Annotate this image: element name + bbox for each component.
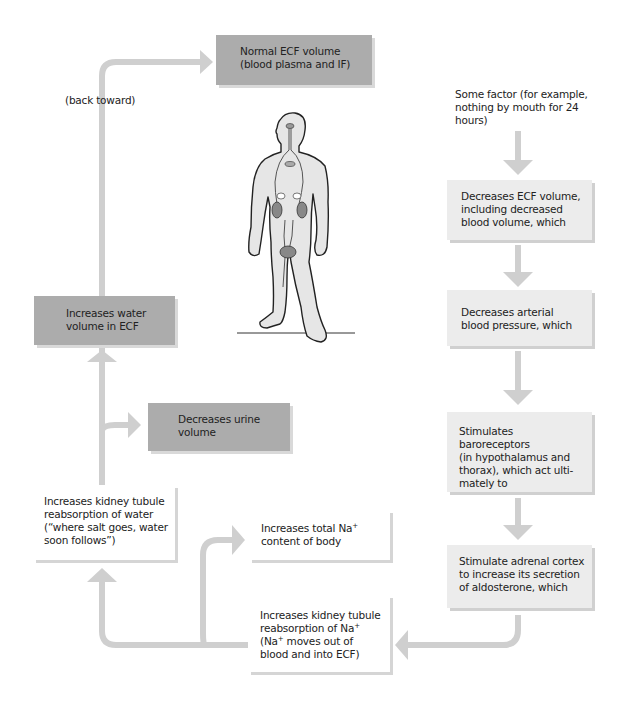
box-text: Decreases arterial: [461, 306, 584, 319]
box-text: blood volume, which: [461, 216, 584, 229]
box-text: (blood plasma and IF): [240, 58, 360, 71]
box-text: soon follows”): [44, 534, 171, 547]
decreases-ecf-volume-box: Decreases ECF volume, including decrease…: [447, 180, 592, 240]
box-text: blood pressure, which: [461, 319, 584, 332]
stimulates-baroreceptors-box: Stimulates baroreceptors (in hypothalamu…: [447, 412, 592, 492]
body-silhouette: [249, 113, 329, 342]
text-fragment: reabsorption of Na: [260, 622, 354, 634]
box-text: Normal ECF volume: [240, 45, 360, 58]
box-text: volume: [178, 426, 284, 439]
box-text: Stimulates baroreceptors: [459, 425, 586, 451]
box-text: content of body: [261, 535, 384, 548]
increases-water-volume-box: Increases water volume in ECF: [34, 296, 175, 345]
superscript: +: [352, 522, 358, 530]
box-text: Decreases urine: [178, 413, 284, 426]
box-text: Increases kidney tubule: [44, 495, 171, 508]
superscript: +: [354, 622, 360, 630]
box-text: reabsorption of water: [44, 508, 171, 521]
box-text: thorax), which act ulti-: [459, 464, 586, 477]
box-text: to increase its secretion: [459, 568, 586, 581]
box-text: including decreased: [461, 203, 584, 216]
box-text: Increases total Na+: [261, 522, 384, 535]
text-fragment: Increases total Na: [261, 522, 352, 534]
bladder-icon: [280, 246, 296, 258]
box-text: Decreases ECF volume,: [461, 190, 584, 203]
kidney-icon: [272, 202, 282, 218]
box-text: volume in ECF: [66, 320, 169, 333]
box-text: (“where salt goes, water: [44, 521, 171, 534]
trigger-line: Some factor (for example,: [455, 88, 588, 101]
decreases-urine-volume-box: Decreases urine volume: [148, 403, 290, 451]
increases-na-reabsorption-box: Increases kidney tubule reabsorption of …: [248, 595, 390, 672]
box-text: of aldosterone, which: [459, 581, 586, 594]
trigger-line: nothing by mouth for 24: [455, 101, 588, 114]
box-text: Increases kidney tubule: [260, 609, 384, 622]
trigger-line: hours): [455, 114, 588, 127]
hypothalamus-icon: [286, 124, 294, 129]
arrow-head: [200, 50, 213, 74]
human-body-figure: [225, 112, 375, 352]
decreases-arterial-pressure-box: Decreases arterial blood pressure, which: [447, 290, 592, 346]
stimulate-adrenal-cortex-box: Stimulate adrenal cortex to increase its…: [447, 545, 592, 608]
box-text: mately to: [459, 477, 586, 490]
normal-ecf-volume-box: Normal ECF volume (blood plasma and IF): [216, 35, 372, 85]
box-text: Increases water: [66, 307, 169, 320]
box-text: (Na+ moves out of: [260, 635, 384, 648]
adrenal-gland-icon: [277, 193, 285, 199]
box-text: (in hypothalamus and: [459, 451, 586, 464]
adrenal-gland-icon: [293, 193, 301, 199]
text-fragment: moves out of: [283, 635, 353, 647]
box-text: blood and into ECF): [260, 648, 384, 661]
box-text: reabsorption of Na+: [260, 622, 384, 635]
trigger-text: Some factor (for example, nothing by mou…: [455, 88, 588, 127]
kidney-icon: [297, 202, 307, 218]
text-fragment: (Na: [260, 635, 278, 647]
increases-water-reabsorption-box: Increases kidney tubule reabsorption of …: [33, 485, 175, 560]
increases-total-na-box: Increases total Na+ content of body: [249, 510, 390, 560]
back-toward-label: (back toward): [65, 94, 135, 107]
box-text: Stimulate adrenal cortex: [459, 555, 586, 568]
thorax-organ-icon: [285, 162, 295, 167]
